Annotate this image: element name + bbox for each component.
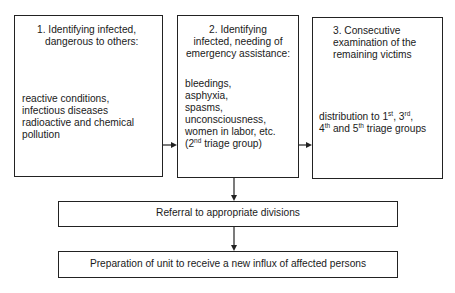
connector-arrows [0,0,455,293]
